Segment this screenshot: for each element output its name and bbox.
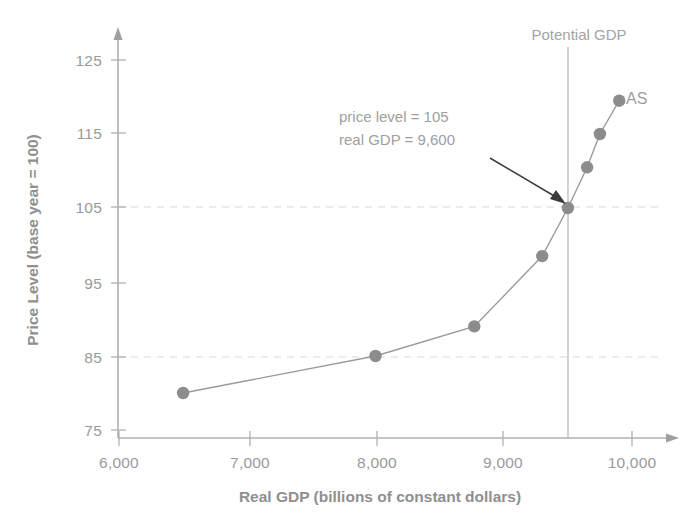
y-tick-label-105: 105	[76, 199, 102, 216]
y-axis-title: Price Level (base year = 100)	[24, 134, 41, 346]
x-axis: 6,000 7,000 8,000 9,000 10,000 Real GDP …	[99, 431, 679, 505]
callout-arrow-shaft	[490, 158, 561, 200]
data-point	[594, 128, 606, 140]
data-point	[581, 161, 593, 173]
y-tick-label-115: 115	[77, 125, 102, 142]
as-curve-label: AS	[626, 90, 647, 107]
y-axis: 125 115 105 95 85 75 Price Level (base y…	[24, 27, 126, 439]
data-point	[562, 202, 574, 214]
aggregate-supply-chart: Potential GDP 125 115 105 95 85 75 Price…	[0, 0, 698, 529]
y-tick-label-85: 85	[84, 349, 102, 366]
x-tick-label-10000: 10,000	[608, 454, 657, 471]
data-point	[369, 350, 381, 362]
potential-gdp-marker: Potential GDP	[531, 26, 626, 438]
callout-line-2: real GDP = 9,600	[339, 131, 455, 148]
x-tick-label-9000: 9,000	[483, 454, 523, 471]
y-tick-label-125: 125	[76, 52, 102, 69]
callout-arrow-head-icon	[550, 190, 566, 204]
x-axis-arrow-icon	[666, 434, 679, 443]
x-tick-label-6000: 6,000	[99, 454, 139, 471]
y-tick-label-95: 95	[84, 275, 102, 292]
equilibrium-callout: price level = 105 real GDP = 9,600	[339, 108, 566, 204]
y-tick-label-75: 75	[84, 422, 102, 439]
gridlines	[118, 207, 660, 357]
x-axis-title: Real GDP (billions of constant dollars)	[239, 488, 521, 505]
data-point	[536, 250, 548, 262]
data-point	[177, 387, 189, 399]
x-tick-label-8000: 8,000	[357, 454, 397, 471]
chart-figure: Potential GDP 125 115 105 95 85 75 Price…	[0, 0, 698, 529]
potential-gdp-label: Potential GDP	[531, 26, 626, 43]
y-axis-arrow-icon	[114, 27, 123, 40]
callout-line-1: price level = 105	[339, 108, 449, 125]
data-point	[613, 95, 625, 107]
data-point	[468, 320, 480, 332]
x-tick-label-7000: 7,000	[230, 454, 270, 471]
